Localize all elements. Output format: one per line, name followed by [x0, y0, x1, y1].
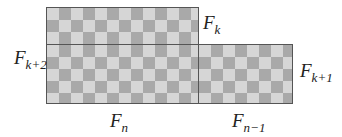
bottom-right-rectangle [198, 44, 293, 104]
label-f-n: Fn [110, 110, 128, 136]
label-f-n-minus-1: Fn−1 [232, 110, 265, 136]
bottom-left-rectangle [46, 44, 199, 104]
label-f-k-plus-2: Fk+2 [14, 47, 47, 73]
top-rectangle [46, 7, 199, 45]
label-f-k-plus-1: Fk+1 [300, 60, 333, 86]
label-f-k: Fk [203, 12, 220, 38]
